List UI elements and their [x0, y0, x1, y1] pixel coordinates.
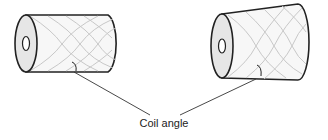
leader-line-left [74, 72, 150, 115]
cone-body [222, 4, 309, 80]
coil-angle-label: Coil angle [0, 117, 328, 129]
cylinder-bore [23, 37, 30, 51]
conical-package [211, 4, 309, 80]
cylindrical-package [15, 15, 116, 72]
cone-bore [219, 39, 226, 53]
leader-line-right [180, 79, 256, 115]
